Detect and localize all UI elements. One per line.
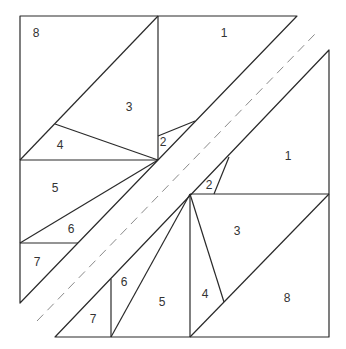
label-lower-1: 1 (285, 149, 292, 163)
label-upper-2: 2 (160, 135, 167, 149)
lower-labels: 1 2 3 6 5 4 8 7 (90, 149, 292, 326)
label-lower-8: 8 (284, 291, 291, 305)
label-lower-2: 2 (206, 178, 213, 192)
piece-3-4-edge (55, 124, 158, 160)
label-lower-4: 4 (202, 287, 209, 301)
upper-labels: 8 1 3 4 2 5 6 7 (33, 26, 228, 269)
piece-3-8-diagonal (190, 194, 329, 337)
label-upper-7: 7 (34, 255, 41, 269)
center-dashed-seam (37, 34, 315, 321)
upper-left-unit (20, 16, 297, 303)
label-lower-3: 3 (234, 224, 241, 238)
label-upper-3: 3 (126, 100, 133, 114)
label-lower-7: 7 (90, 312, 97, 326)
piece-2-upper (158, 121, 195, 136)
label-upper-1: 1 (221, 26, 228, 40)
label-lower-5: 5 (159, 295, 166, 309)
label-lower-6: 6 (121, 275, 128, 289)
piece-5-6-edge (20, 160, 158, 243)
piece-8-3-diagonal (20, 16, 158, 160)
label-upper-5: 5 (52, 181, 59, 195)
piece-3-4-edge-lower (190, 194, 224, 302)
label-upper-8: 8 (33, 26, 40, 40)
label-upper-6: 6 (68, 222, 75, 236)
quilt-diagram: 8 1 3 4 2 5 6 7 1 2 3 6 5 4 8 7 (0, 0, 346, 349)
label-upper-4: 4 (57, 138, 64, 152)
